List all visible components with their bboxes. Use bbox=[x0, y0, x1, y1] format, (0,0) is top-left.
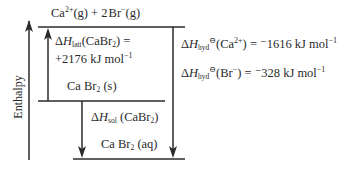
enthalpy-symbol: H bbox=[189, 66, 198, 80]
bromide-coefficient: 2 bbox=[101, 6, 107, 20]
enthalpy-axis-arrow bbox=[25, 20, 33, 160]
lattice-enthalpy-value: +2176 kJ mol−1 bbox=[55, 53, 132, 66]
lattice-enthalpy-label: ΔHlatt(CaBr2) = bbox=[55, 35, 130, 48]
enthalpy-symbol: H bbox=[189, 37, 198, 51]
solution-compound: (CaBr bbox=[117, 110, 151, 124]
unit-exponent: −1 bbox=[329, 36, 338, 45]
hydration-bromide-label: ΔHhyd⊖(Br−) = ⁻328 kJ mol−1 bbox=[181, 67, 325, 80]
unit-exponent: −1 bbox=[317, 65, 326, 74]
solid-formula: Ca Br bbox=[67, 79, 97, 93]
calcium-charge: 2+ bbox=[234, 36, 243, 45]
lattice-enthalpy-arrow bbox=[44, 28, 52, 101]
solution-compound-close: ) bbox=[154, 110, 158, 124]
enthalpy-symbol: H bbox=[63, 34, 72, 48]
bromide-ion: (Br bbox=[216, 66, 233, 80]
hydration-enthalpy-arrow bbox=[169, 27, 177, 158]
hydration-calcium-value: ⁻1616 kJ mol bbox=[260, 37, 328, 51]
aqueous-subscript: 2 bbox=[131, 143, 135, 152]
solution-enthalpy-label: ΔHsol (CaBr2) bbox=[91, 111, 158, 124]
plus-sign: + bbox=[91, 6, 98, 20]
enthalpy-symbol: H bbox=[99, 110, 108, 124]
lattice-value-text: +2176 kJ mol bbox=[55, 52, 124, 66]
aqueous-state: (aq) bbox=[137, 137, 157, 151]
delta-symbol: Δ bbox=[181, 37, 189, 51]
solid-subscript: 2 bbox=[97, 85, 101, 94]
enthalpy-diagram: Enthalpy Ca2+(g) + 2 Br−(g) ΔHlatt(CaBr2… bbox=[0, 0, 351, 169]
equals-sign: ) = bbox=[243, 37, 260, 51]
aqueous-formula: Ca Br bbox=[101, 137, 131, 151]
bromide-ion: Br bbox=[109, 6, 122, 20]
delta-symbol: Δ bbox=[181, 66, 189, 80]
bromide-state: (g) bbox=[126, 6, 141, 20]
lattice-unit-exponent: −1 bbox=[124, 51, 133, 60]
middle-level-label: Ca Br2 (s) bbox=[67, 80, 117, 93]
lattice-compound: (CaBr bbox=[82, 34, 113, 48]
calcium-ion: (Ca bbox=[216, 37, 234, 51]
hydration-subscript: hyd bbox=[198, 43, 209, 52]
solution-subscript: sol bbox=[108, 116, 117, 125]
delta-symbol: Δ bbox=[91, 110, 99, 124]
solution-enthalpy-arrow bbox=[78, 101, 86, 158]
top-level-label: Ca2+(g) + 2 Br−(g) bbox=[51, 7, 140, 20]
lattice-compound-close: ) = bbox=[116, 34, 130, 48]
delta-symbol: Δ bbox=[55, 34, 63, 48]
calcium-state: (g) bbox=[73, 6, 88, 20]
hydration-subscript: hyd bbox=[198, 72, 209, 81]
diagram-lines bbox=[0, 0, 351, 169]
calcium-ion: Ca bbox=[51, 6, 65, 20]
solid-state: (s) bbox=[103, 79, 116, 93]
bottom-level-label: Ca Br2 (aq) bbox=[101, 138, 158, 151]
hydration-calcium-label: ΔHhyd⊖(Ca2+) = ⁻1616 kJ mol−1 bbox=[181, 38, 337, 51]
enthalpy-axis-label: Enthalpy bbox=[11, 75, 26, 118]
lattice-subscript: latt bbox=[72, 40, 82, 49]
equals-sign: ) = bbox=[237, 66, 254, 80]
hydration-bromide-value: ⁻328 kJ mol bbox=[255, 66, 317, 80]
